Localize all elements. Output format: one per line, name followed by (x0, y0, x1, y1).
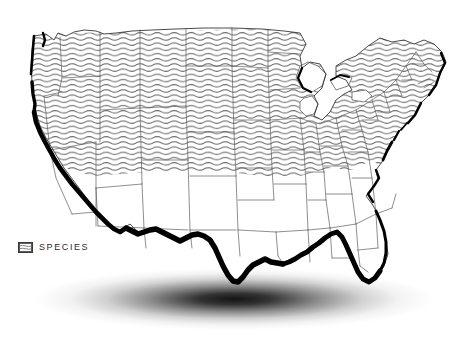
species-distribution-figure: SPECIES (0, 0, 466, 339)
united-states-map (0, 0, 466, 339)
legend-label-species: SPECIES (39, 242, 89, 253)
map-legend: SPECIES (18, 242, 89, 253)
legend-swatch-species-icon (18, 242, 33, 253)
